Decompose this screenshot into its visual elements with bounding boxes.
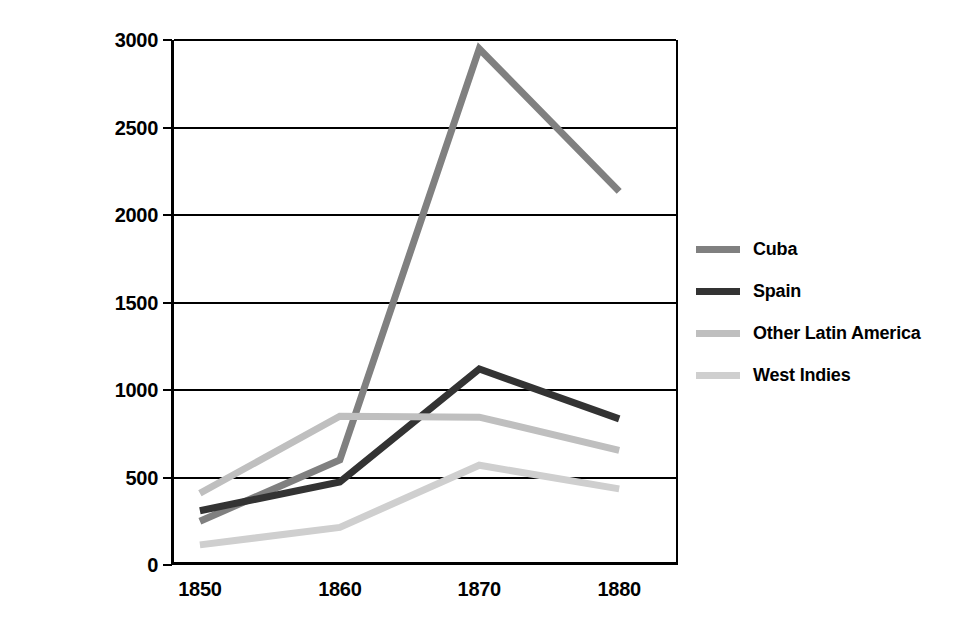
x-tick-label: 1860 bbox=[318, 578, 361, 601]
y-tick-mark bbox=[163, 214, 172, 216]
y-tick-mark bbox=[163, 39, 172, 41]
legend-item-spain[interactable]: Spain bbox=[696, 270, 956, 312]
y-tick-label: 500 bbox=[126, 468, 158, 488]
legend-label: West Indies bbox=[753, 365, 851, 386]
y-axis: 050010001500200025003000 bbox=[30, 40, 158, 565]
y-tick-label: 1000 bbox=[115, 380, 158, 400]
x-tick-label: 1870 bbox=[458, 578, 501, 601]
y-tick-label: 1500 bbox=[115, 293, 158, 313]
legend-item-west-indies[interactable]: West Indies bbox=[696, 354, 956, 396]
gridline bbox=[174, 302, 676, 304]
y-tick-label: 0 bbox=[147, 555, 158, 575]
legend: CubaSpainOther Latin AmericaWest Indies bbox=[696, 228, 956, 396]
y-tick-mark bbox=[163, 127, 172, 129]
y-tick-label: 2000 bbox=[115, 205, 158, 225]
legend-swatch-icon bbox=[696, 288, 740, 295]
legend-label: Spain bbox=[753, 281, 801, 302]
legend-item-other-latin-america[interactable]: Other Latin America bbox=[696, 312, 956, 354]
legend-swatch-icon bbox=[696, 330, 740, 337]
plot-area bbox=[171, 40, 678, 565]
y-tick-mark bbox=[163, 564, 172, 566]
y-tick-mark bbox=[163, 302, 172, 304]
line-chart: 050010001500200025003000 185018601870188… bbox=[0, 0, 972, 623]
x-tick-label: 1880 bbox=[598, 578, 641, 601]
y-tick-label: 3000 bbox=[115, 30, 158, 50]
x-tick-label: 1850 bbox=[178, 578, 221, 601]
legend-label: Other Latin America bbox=[753, 323, 921, 344]
legend-item-cuba[interactable]: Cuba bbox=[696, 228, 956, 270]
y-tick-label: 2500 bbox=[115, 118, 158, 138]
legend-swatch-icon bbox=[696, 372, 740, 379]
y-tick-mark bbox=[163, 389, 172, 391]
gridline bbox=[174, 477, 676, 479]
legend-label: Cuba bbox=[753, 239, 797, 260]
gridline bbox=[174, 389, 676, 391]
legend-swatch-icon bbox=[696, 246, 740, 253]
gridline bbox=[174, 127, 676, 129]
y-tick-mark bbox=[163, 477, 172, 479]
gridline bbox=[174, 39, 676, 41]
gridline bbox=[174, 214, 676, 216]
